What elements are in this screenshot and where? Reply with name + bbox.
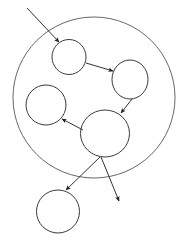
edge-right-to-hub [121, 99, 132, 113]
node-hub[interactable] [81, 110, 130, 157]
edge-top-to-right [86, 63, 113, 71]
edge-hub-to-left [62, 119, 83, 130]
node-group [26, 40, 148, 234]
node-left[interactable] [26, 85, 66, 125]
diagram-canvas [0, 0, 189, 245]
edge-hub-to-external [101, 157, 119, 201]
edge-group [27, 8, 132, 201]
node-graph-svg [0, 0, 189, 245]
node-top[interactable] [52, 40, 86, 75]
outer-boundary-ellipse [13, 17, 175, 178]
edge-hub-to-bottom [66, 157, 100, 190]
node-right[interactable] [112, 60, 148, 99]
node-bottom[interactable] [37, 190, 80, 233]
edge-external-in [27, 8, 59, 42]
